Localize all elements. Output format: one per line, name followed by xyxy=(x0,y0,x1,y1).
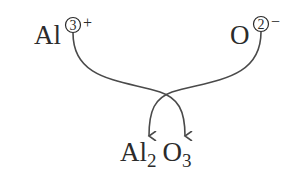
product-element1: Al xyxy=(120,137,147,167)
anion-charge-sign: − xyxy=(271,13,280,30)
cation-to-anion-subscript-arrow xyxy=(73,33,185,136)
cation-symbol: Al xyxy=(34,20,61,50)
anion-symbol: O xyxy=(230,20,250,50)
cation-charge-sign: + xyxy=(83,14,92,31)
crisscross-diagram: Al 3 + O 2 − Al2O3 xyxy=(0,0,305,177)
product-subscript1: 2 xyxy=(147,150,157,171)
cation-charge-magnitude: 3 xyxy=(70,18,77,33)
product-subscript2: 3 xyxy=(182,150,192,171)
anion-group: O 2 − xyxy=(230,13,280,50)
product-formula: Al2O3 xyxy=(120,137,192,171)
product-element2: O xyxy=(163,137,183,167)
anion-charge-magnitude: 2 xyxy=(258,17,265,32)
cation-group: Al 3 + xyxy=(34,14,92,50)
product-text: Al2O3 xyxy=(120,137,192,171)
